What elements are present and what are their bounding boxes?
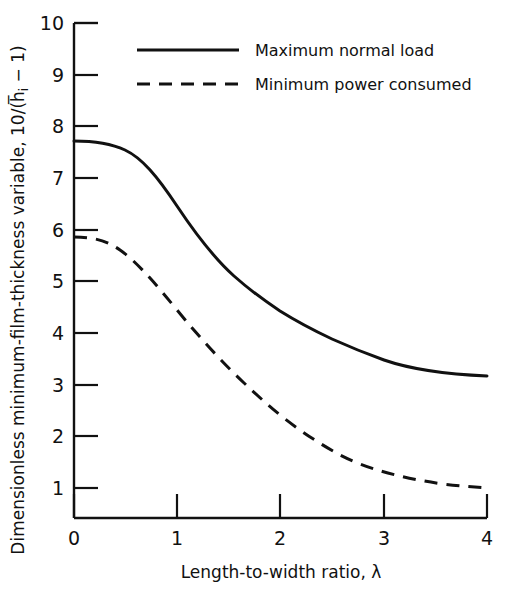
x-tick-label-1: 1 (171, 527, 183, 549)
y-tick-label-9: 9 (52, 64, 64, 86)
y-axis-title: Dimensionless minimum-film-thickness var… (7, 45, 31, 554)
legend-label-maximum-normal-load: Maximum normal load (255, 41, 434, 60)
y-tick-label-3: 3 (52, 374, 64, 396)
legend-item-minimum-power-consumed: Minimum power consumed (137, 75, 472, 94)
y-tick-label-8: 8 (52, 115, 64, 137)
y-tick-label-10: 10 (40, 12, 64, 34)
chart-figure: 10 9 8 7 6 5 4 3 2 1 0 1 2 3 4 Len (0, 0, 508, 609)
y-axis-title-prefix: Dimensionless minimum-film-thickness var… (8, 102, 28, 555)
x-tick-label-4: 4 (481, 527, 493, 549)
line-maximum-normal-load (74, 141, 487, 376)
y-tick-label-6: 6 (52, 219, 64, 241)
line-chart: 10 9 8 7 6 5 4 3 2 1 0 1 2 3 4 Len (0, 0, 508, 609)
x-axis-tick-labels: 0 1 2 3 4 (68, 527, 493, 549)
y-tick-label-2: 2 (52, 425, 64, 447)
legend-item-maximum-normal-load: Maximum normal load (137, 41, 434, 60)
y-tick-label-5: 5 (52, 270, 64, 292)
y-axis-ticks (74, 23, 98, 488)
x-tick-label-3: 3 (378, 527, 390, 549)
axes-lines (74, 23, 487, 518)
series-minimum-power-consumed (74, 237, 487, 488)
svg-text:Dimensionless minimum-film-thi: Dimensionless minimum-film-thickness var… (7, 45, 31, 554)
y-tick-label-7: 7 (52, 167, 64, 189)
series-maximum-normal-load (74, 141, 487, 376)
y-tick-label-4: 4 (52, 322, 64, 344)
y-axis-title-suffix: − 1) (8, 45, 28, 88)
x-axis-ticks (74, 494, 487, 518)
x-tick-label-2: 2 (274, 527, 286, 549)
legend-label-minimum-power-consumed: Minimum power consumed (255, 75, 472, 94)
x-tick-label-0: 0 (68, 527, 80, 549)
y-axis-title-h-symbol: h̅ (7, 91, 28, 104)
x-axis-title: Length-to-width ratio, λ (181, 562, 382, 582)
line-minimum-power-consumed (74, 237, 487, 488)
chart-legend: Maximum normal load Minimum power consum… (137, 41, 472, 94)
y-tick-label-1: 1 (52, 477, 64, 499)
y-axis-tick-labels: 10 9 8 7 6 5 4 3 2 1 (40, 12, 64, 499)
